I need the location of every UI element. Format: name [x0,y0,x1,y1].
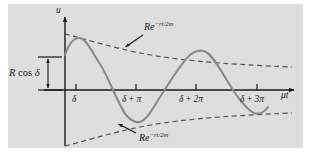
lower-envelope-exponent: −rt/2m [150,131,169,138]
measurement-cos-text: cos [18,67,32,78]
x-axis-label: μt [281,91,288,101]
y-axis-label: u [56,6,61,16]
lower-envelope-base: Re [139,132,150,143]
figure-damped-oscillation: u μt δ δ + π δ + 2π δ + 3π R cos δ Re−rt… [0,0,316,157]
tick-label-op: + [244,94,254,104]
tick-label-trail: π [137,94,142,104]
tick-label-trail: 3π [255,94,265,104]
tick-label-trail: 2π [194,94,204,104]
upper-envelope-leader-arrow [126,35,144,47]
tick-label-delta: δ [72,95,76,105]
measurement-phase: δ [35,67,40,78]
tick-label-delta-plus-2pi: δ + 2π [179,95,203,105]
upper-envelope-base: Re [144,21,155,32]
damped-oscillation-curve [65,38,268,122]
measurement-bracket-rcosdelta [38,57,62,90]
tick-label-op: + [126,94,136,104]
upper-envelope-exponent: −rt/2m [155,20,174,27]
lower-envelope-curve [65,113,292,146]
lower-envelope-label: Re−rt/2m [139,132,168,143]
measurement-label-rcosdelta: R cos δ [9,68,40,79]
tick-label-op: + [183,94,193,104]
tick-label-delta-plus-3pi: δ + 3π [240,95,264,105]
x-axis-label-t: t [286,90,289,100]
tick-label-delta-plus-pi: δ + π [122,95,141,105]
upper-envelope-label: Re−rt/2m [144,21,173,32]
